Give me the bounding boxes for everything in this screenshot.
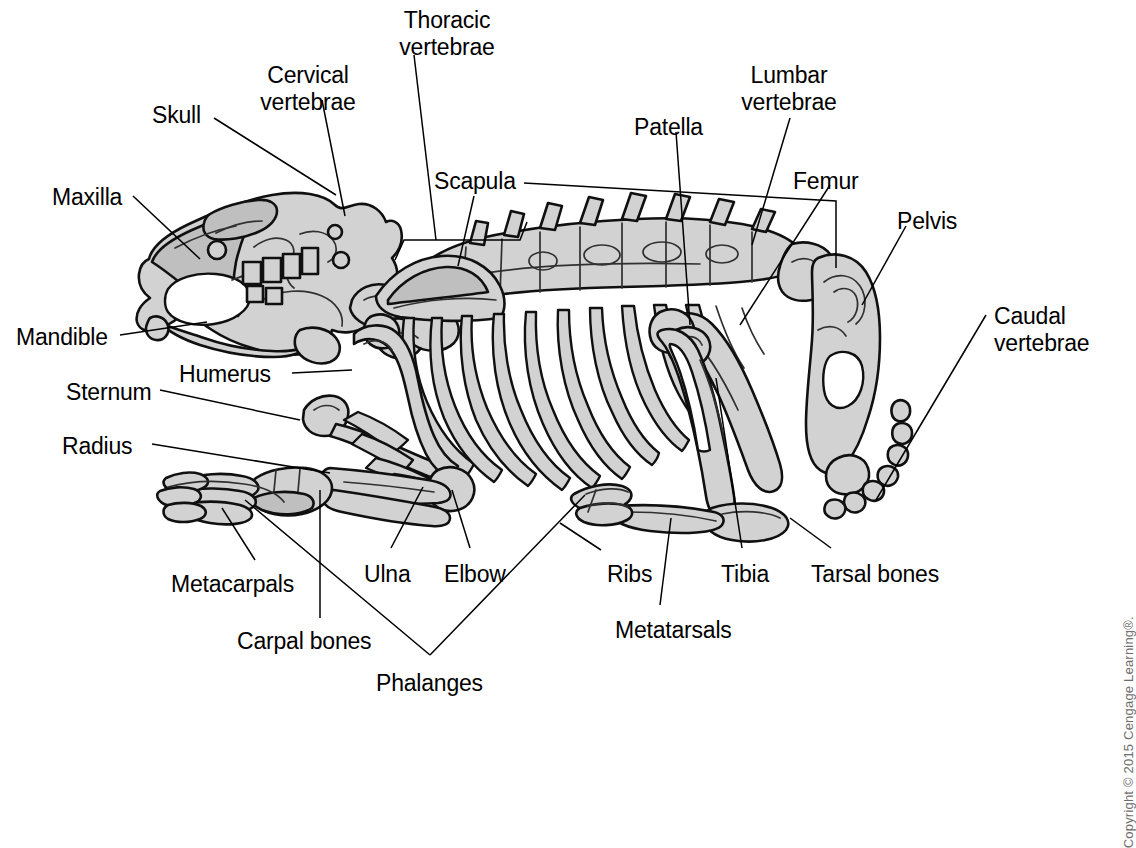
label-tarsal-bones: Tarsal bones	[811, 561, 939, 588]
label-ribs: Ribs	[607, 561, 652, 588]
label-maxilla: Maxilla	[52, 184, 122, 211]
skull-foramen-c	[333, 252, 349, 268]
rib-tip-12	[742, 308, 764, 354]
skull-orbit	[165, 274, 250, 325]
hind-phalanx-2	[576, 504, 632, 526]
obturator-foramen	[823, 352, 863, 408]
leader-pelvis	[862, 226, 906, 305]
label-radius: Radius	[62, 433, 132, 460]
label-carpal-bones: Carpal bones	[237, 628, 371, 655]
label-pelvis: Pelvis	[897, 208, 957, 235]
label-thoracic-vertebrae: Thoracic vertebrae	[399, 7, 494, 61]
copyright-notice: Copyright © 2015 Cengage Learning®.	[1121, 616, 1136, 848]
label-skull: Skull	[152, 102, 201, 129]
tooth-1	[243, 262, 261, 284]
label-humerus: Humerus	[179, 361, 271, 388]
label-tibia: Tibia	[721, 561, 769, 588]
tooth-2	[263, 258, 281, 282]
label-sternum: Sternum	[66, 379, 152, 406]
label-metatarsals: Metatarsals	[615, 617, 732, 644]
tooth-3	[283, 254, 300, 278]
label-femur: Femur	[793, 168, 858, 195]
spinous-process-1	[470, 221, 488, 245]
label-lumbar-vertebrae: Lumbar vertebrae	[741, 62, 836, 116]
caudal-v7	[824, 500, 845, 519]
label-caudal-vertebrae: Caudal vertebrae	[994, 303, 1089, 357]
leader-tarsal-bones	[790, 518, 831, 548]
label-elbow: Elbow	[444, 561, 506, 588]
caudal-v1	[891, 400, 910, 421]
label-cervical-vertebrae: Cervical vertebrae	[260, 62, 355, 116]
spinous-process-8	[752, 209, 775, 232]
tooth-premolar	[247, 286, 263, 302]
tooth-molar	[266, 288, 282, 304]
leader-lumbar-vertebrae	[752, 118, 790, 245]
label-ulna: Ulna	[364, 561, 411, 588]
pelvis-group	[806, 254, 880, 494]
leader-radius	[152, 444, 330, 473]
label-patella: Patella	[634, 114, 703, 141]
skull-foramen-b	[328, 225, 342, 239]
leader-ribs	[560, 523, 601, 550]
leader-skull	[214, 118, 336, 195]
leader-humerus	[292, 370, 352, 373]
label-metacarpals: Metacarpals	[171, 571, 294, 598]
leader-thoracic-vertebrae	[414, 55, 436, 240]
label-mandible: Mandible	[16, 324, 108, 351]
carpal-shade	[252, 492, 313, 514]
label-phalanges: Phalanges	[376, 670, 483, 697]
mandible-ramus	[295, 328, 340, 364]
phalanx-3	[164, 503, 206, 522]
caudal-v2	[892, 423, 912, 444]
skull-foramen-a	[208, 241, 226, 259]
spinous-process-6	[666, 194, 690, 221]
label-scapula: Scapula	[434, 168, 516, 195]
leader-sternum	[160, 390, 300, 420]
tooth-4	[302, 248, 318, 274]
spinous-process-5	[622, 193, 646, 221]
caudal-v6	[844, 493, 865, 513]
